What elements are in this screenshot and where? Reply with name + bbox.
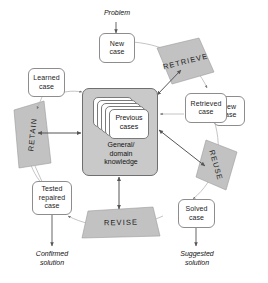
- process-banner-retrieve[interactable]: RETRIEVE: [157, 38, 214, 84]
- suggested-solution-line2: solution: [166, 259, 228, 268]
- confirmed-solution-line1: Confirmed: [22, 250, 82, 259]
- tested-repaired-case-line3: case: [44, 202, 59, 211]
- previous-cases-label: Previous cases: [109, 114, 149, 131]
- confirmed-solution-line2: solution: [22, 259, 82, 268]
- new-case-line2: case: [109, 48, 124, 57]
- process-banner-revise-label: REVISE: [82, 206, 161, 238]
- process-banner-reuse[interactable]: REUSE: [196, 140, 237, 190]
- retrieved-case-line1: Retrieved: [191, 100, 222, 109]
- previous-cases-line1: Previous: [109, 114, 149, 123]
- solved-case-box[interactable]: Solved case: [178, 199, 215, 228]
- retrieved-case-box[interactable]: Retrieved case: [185, 93, 227, 123]
- cbr-cycle-diagram: RETRIEVE REUSE REVISE RETAIN Previous ca…: [0, 0, 268, 283]
- process-banner-revise[interactable]: REVISE: [82, 207, 160, 238]
- knowledge-line2: domain: [83, 150, 159, 159]
- suggested-solution-label: Suggested solution: [166, 250, 228, 267]
- general-domain-knowledge-label: General/ domain knowledge: [83, 141, 159, 167]
- previous-cases-line2: cases: [109, 123, 149, 132]
- process-banner-retain[interactable]: RETAIN: [14, 101, 51, 168]
- suggested-solution-line1: Suggested: [166, 250, 228, 259]
- tested-repaired-case-box[interactable]: Tested repaired case: [32, 181, 72, 215]
- learned-case-line1: Learned: [33, 74, 59, 83]
- process-banner-retrieve-label: RETRIEVE: [152, 32, 218, 90]
- solved-case-line2: case: [189, 214, 204, 223]
- tested-repaired-case-line2: repaired: [39, 194, 65, 203]
- confirmed-solution-label: Confirmed solution: [22, 250, 82, 267]
- general-domain-knowledge-container[interactable]: Previous cases General/ domain knowledge: [82, 88, 158, 176]
- solved-case-line1: Solved: [185, 205, 207, 214]
- problem-label: Problem: [96, 9, 138, 18]
- new-case-box[interactable]: New case: [99, 33, 135, 63]
- retrieved-case-line2: case: [198, 108, 213, 117]
- knowledge-line1: General/: [83, 141, 159, 150]
- new-case-line1: New: [110, 40, 124, 49]
- knowledge-line3: knowledge: [83, 158, 159, 167]
- tested-repaired-case-line1: Tested: [41, 185, 62, 194]
- learned-case-line2: case: [39, 83, 54, 92]
- learned-case-box[interactable]: Learned case: [28, 68, 65, 97]
